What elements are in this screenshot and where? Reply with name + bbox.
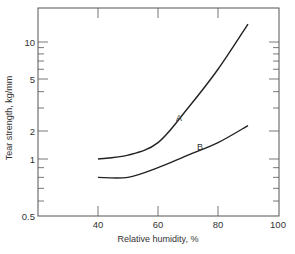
x-axis-ticks: 406080100 bbox=[93, 8, 286, 230]
x-axis-title: Relative humidity, % bbox=[118, 234, 199, 244]
y-tick-label: 5 bbox=[30, 74, 35, 85]
data-curves bbox=[98, 24, 248, 178]
x-tick-label: 60 bbox=[153, 219, 164, 230]
y-axis-ticks: 0.512510 bbox=[22, 37, 279, 222]
y-tick-label: 0.5 bbox=[22, 211, 35, 222]
y-tick-label: 10 bbox=[24, 37, 35, 48]
x-tick-label: 100 bbox=[270, 219, 286, 230]
plot-frame bbox=[38, 8, 279, 216]
curve-label-b: B bbox=[197, 142, 203, 152]
x-tick-label: 80 bbox=[213, 219, 224, 230]
curve-b bbox=[98, 126, 248, 178]
y-axis-title: Tear strength, kg/mm bbox=[4, 76, 14, 161]
tear-strength-chart: 0.512510 406080100 AB Relative humidity,… bbox=[0, 0, 295, 254]
plot-border bbox=[38, 8, 279, 216]
curve-label-a: A bbox=[176, 113, 182, 123]
y-tick-label: 2 bbox=[30, 126, 35, 137]
x-tick-label: 40 bbox=[93, 219, 104, 230]
curve-labels: AB bbox=[176, 113, 203, 152]
y-tick-label: 1 bbox=[30, 154, 35, 165]
